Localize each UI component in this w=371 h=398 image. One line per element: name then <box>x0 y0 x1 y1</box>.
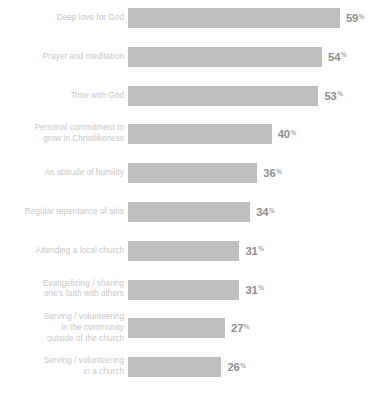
bar <box>128 8 340 28</box>
bar <box>128 202 250 222</box>
bar-track: 26% <box>128 357 371 377</box>
bar-track: 53% <box>128 86 371 106</box>
bar <box>128 318 225 338</box>
horizontal-bar-chart: Deep love for God59%Prayer and meditatio… <box>0 0 371 398</box>
bar-category-label: Prayer and meditation <box>0 52 124 63</box>
percent-sign: % <box>240 362 246 369</box>
bar-category-label: Serving / volunteering in the community … <box>0 313 124 345</box>
bar-row: Serving / volunteering in a church26% <box>0 357 371 377</box>
bar-row: Regular repentance of sins34% <box>0 202 371 222</box>
bar-row: Evangelizing / sharing one's faith with … <box>0 280 371 300</box>
bar-value-number: 40 <box>278 128 290 140</box>
bar-track: 36% <box>128 163 371 183</box>
percent-sign: % <box>341 51 347 58</box>
bar-track: 59% <box>128 8 371 28</box>
bar-row: Time with God53% <box>0 86 371 106</box>
bar-category-label: Personal commitment to grow in Christlik… <box>0 124 124 145</box>
bar-category-label: Serving / volunteering in a church <box>0 357 124 378</box>
bar-value-number: 31 <box>245 245 257 257</box>
bar-value-number: 31 <box>245 284 257 296</box>
bar-value-label: 26% <box>227 361 245 373</box>
bar-value-number: 54 <box>328 51 340 63</box>
bar-value-label: 31% <box>245 284 263 296</box>
percent-sign: % <box>244 323 250 330</box>
percent-sign: % <box>276 168 282 175</box>
percent-sign: % <box>359 13 365 20</box>
bar-value-label: 36% <box>263 167 281 179</box>
bar-value-number: 59 <box>346 12 358 24</box>
bar-value-label: 54% <box>328 51 346 63</box>
bar-value-number: 36 <box>263 167 275 179</box>
bar-category-label: An attitude of humility <box>0 168 124 179</box>
percent-sign: % <box>269 207 275 214</box>
bar <box>128 163 257 183</box>
bar-track: 40% <box>128 124 371 144</box>
bar-row: Deep love for God59% <box>0 8 371 28</box>
bar <box>128 357 221 377</box>
percent-sign: % <box>258 245 264 252</box>
bar-track: 34% <box>128 202 371 222</box>
bar-row: An attitude of humility36% <box>0 163 371 183</box>
bar-value-label: 40% <box>278 128 296 140</box>
bar-value-label: 27% <box>231 322 249 334</box>
bar-value-label: 34% <box>256 206 274 218</box>
percent-sign: % <box>291 129 297 136</box>
bar <box>128 124 272 144</box>
bar-value-number: 53 <box>324 90 336 102</box>
bar-track: 31% <box>128 241 371 261</box>
bar <box>128 47 322 67</box>
bar-row: Serving / volunteering in the community … <box>0 318 371 338</box>
bar-value-number: 34 <box>256 206 268 218</box>
bar-track: 54% <box>128 47 371 67</box>
bar-row: Attending a local church31% <box>0 241 371 261</box>
bar-category-label: Deep love for God <box>0 13 124 24</box>
bar-value-label: 59% <box>346 12 364 24</box>
bar-value-number: 26 <box>227 361 239 373</box>
percent-sign: % <box>258 284 264 291</box>
bar-value-number: 27 <box>231 322 243 334</box>
bar-category-label: Evangelizing / sharing one's faith with … <box>0 279 124 300</box>
bar <box>128 86 318 106</box>
bar-category-label: Regular repentance of sins <box>0 207 124 218</box>
bar-row: Prayer and meditation54% <box>0 47 371 67</box>
bar <box>128 241 239 261</box>
bar-category-label: Attending a local church <box>0 246 124 257</box>
bar-row: Personal commitment to grow in Christlik… <box>0 124 371 144</box>
percent-sign: % <box>337 90 343 97</box>
bar <box>128 280 239 300</box>
bar-track: 27% <box>128 318 371 338</box>
bar-value-label: 31% <box>245 245 263 257</box>
bar-track: 31% <box>128 280 371 300</box>
bar-category-label: Time with God <box>0 90 124 101</box>
bar-value-label: 53% <box>324 90 342 102</box>
